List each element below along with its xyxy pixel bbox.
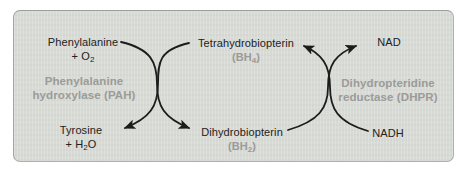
oxygen-formula: + O2 [48, 49, 118, 63]
dihydrobiopterin-label: Dihydrobiopterin (BH2) [201, 125, 283, 153]
water-formula: + H2O [60, 137, 102, 151]
bh4-abbreviation: (BH4) [198, 50, 294, 64]
nadh-label: NADH [372, 126, 404, 140]
pah-line1: Phenylalanine [32, 75, 135, 89]
bh2-abbreviation: (BH2) [201, 139, 283, 153]
figure-canvas: Phenylalanine + O2 Phenylalanine hydroxy… [0, 0, 473, 180]
substrate-phenylalanine-label: Phenylalanine + O2 [48, 35, 118, 63]
phenylalanine-text: Phenylalanine [48, 35, 118, 49]
dhpr-line2: reductase (DHPR) [338, 90, 437, 104]
enzyme-dhpr-label: Dihydropteridine reductase (DHPR) [338, 77, 437, 104]
dhpr-line1: Dihydropteridine [338, 77, 437, 91]
product-tyrosine-label: Tyrosine + H2O [60, 123, 102, 151]
enzyme-pah-label: Phenylalanine hydroxylase (PAH) [32, 75, 135, 102]
tyrosine-text: Tyrosine [60, 123, 102, 137]
nad-label: NAD [377, 35, 401, 49]
tetrahydrobiopterin-text: Tetrahydrobiopterin [198, 36, 294, 50]
pah-line2: hydroxylase (PAH) [32, 88, 135, 102]
dihydrobiopterin-text: Dihydrobiopterin [201, 125, 283, 139]
tetrahydrobiopterin-label: Tetrahydrobiopterin (BH4) [198, 36, 294, 64]
